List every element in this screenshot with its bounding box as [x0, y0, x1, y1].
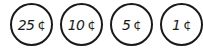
coin-5-cents: 5¢ — [110, 3, 153, 46]
cent-sign: ¢ — [183, 17, 191, 32]
coin-25-cents: 25¢ — [10, 3, 53, 46]
coin-1-cent: 1¢ — [160, 3, 203, 46]
coin-value: 5 — [122, 17, 130, 33]
cent-sign: ¢ — [88, 17, 96, 32]
cent-sign: ¢ — [133, 17, 141, 32]
cent-sign: ¢ — [38, 17, 46, 32]
coin-value: 10 — [68, 17, 85, 33]
coin-value: 1 — [172, 17, 180, 33]
coin-value: 25 — [18, 17, 35, 33]
coin-10-cents: 10¢ — [60, 3, 103, 46]
